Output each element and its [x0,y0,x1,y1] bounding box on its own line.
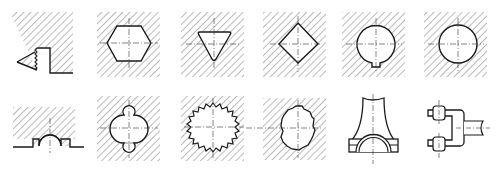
panel-spline-hole [246,98,326,160]
broaching-surfaces-diagram [0,0,496,179]
panel-connecting-rod [349,94,398,164]
panel-square-hole [263,12,326,77]
panel-sawtooth-groove [10,12,73,73]
panel-round-hole [424,12,487,77]
panel-semicircular-groove [13,107,84,153]
panel-triangle-hole [181,12,244,77]
panel-fork-clevis [428,100,490,158]
panel-multi-radius-hole [97,96,160,161]
panel-round-keyway-hole [342,12,405,77]
panel-serrated-hole [181,96,244,161]
panel-hexagon-hole [97,12,160,77]
